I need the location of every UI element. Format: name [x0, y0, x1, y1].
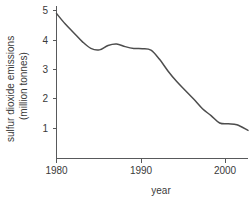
chart-canvas: sulfur dioxide emissions (million tonnes… — [0, 0, 250, 198]
chart-figure: sulfur dioxide emissions (million tonnes… — [0, 0, 250, 198]
y-tick-label-4: 4 — [42, 35, 48, 46]
y-axis-title-line1: sulfur dioxide emissions — [5, 36, 16, 142]
y-tick-label-3: 3 — [42, 64, 48, 75]
x-axis-title: year — [151, 185, 171, 196]
y-tick-label-1: 1 — [42, 123, 48, 134]
y-axis-title-line2: (million tonnes) — [18, 52, 29, 120]
y-tick-label-5: 5 — [42, 5, 48, 16]
y-axis-ticks: 5 4 3 2 1 — [42, 5, 56, 134]
y-axis-title: sulfur dioxide emissions (million tonnes… — [5, 36, 29, 142]
x-tick-label-2000: 2000 — [214, 165, 237, 176]
x-tick-label-1980: 1980 — [45, 165, 68, 176]
data-series-line — [57, 13, 249, 130]
y-tick-label-2: 2 — [42, 93, 48, 104]
x-tick-label-1990: 1990 — [130, 165, 153, 176]
x-axis-ticks: 1980 1990 2000 — [45, 159, 236, 177]
